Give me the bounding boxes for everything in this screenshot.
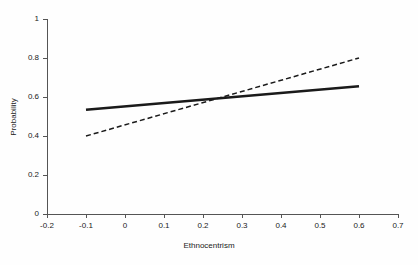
series-solid-line — [86, 86, 359, 109]
x-tick-label: 0.1 — [158, 222, 169, 230]
x-axis-title: Ethnocentrism — [183, 242, 234, 250]
x-tick-label: 0 — [123, 222, 127, 230]
x-axis-ticks — [47, 214, 398, 218]
y-axis-ticks — [43, 19, 47, 214]
y-tick-label: 0.2 — [0, 171, 39, 179]
y-tick-label: 0.6 — [0, 93, 39, 101]
x-tick-label: -0.2 — [40, 222, 54, 230]
x-tick-label: 0.2 — [197, 222, 208, 230]
x-tick-label: 0.4 — [275, 222, 286, 230]
y-tick-label: 0.8 — [0, 54, 39, 62]
y-axis-title: Probability — [10, 98, 18, 135]
chart-figure: 0 0.2 0.4 0.6 0.8 1 -0.2 -0.1 0 0.1 0.2 … — [0, 0, 418, 265]
y-tick-label: 0.4 — [0, 132, 39, 140]
x-tick-label: 0.7 — [392, 222, 403, 230]
x-tick-label: 0.6 — [353, 222, 364, 230]
y-tick-label: 1 — [0, 15, 39, 23]
x-tick-label: 0.5 — [314, 222, 325, 230]
x-tick-label: -0.1 — [79, 222, 93, 230]
x-tick-label: 0.3 — [236, 222, 247, 230]
y-tick-label: 0 — [0, 210, 39, 218]
